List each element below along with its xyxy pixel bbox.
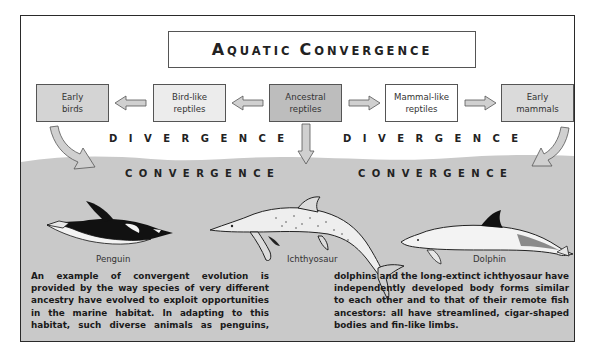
box-label: mammals xyxy=(516,103,559,115)
box-early-mammals: Earlymammals xyxy=(501,84,574,122)
box-label: Bird-like xyxy=(172,91,207,103)
diagram-title: AQUATIC CONVERGENCE xyxy=(212,40,433,59)
box-label: Early xyxy=(516,91,559,103)
box-mammal-like-reptiles: Mammal-likereptiles xyxy=(385,84,458,122)
curved-arrow-down-right-icon xyxy=(48,125,100,171)
box-label: reptiles xyxy=(394,103,449,115)
penguin-illustration xyxy=(43,197,183,253)
animal-label-penguin: Penguin xyxy=(96,254,130,264)
curved-arrow-down-left-icon xyxy=(531,125,575,171)
arrow-right-icon xyxy=(347,95,381,111)
box-early-birds: Earlybirds xyxy=(36,84,109,122)
animal-label-ichthyosaur: Ichthyosaur xyxy=(287,254,338,264)
divergence-label-left: D I V E R G E N C E xyxy=(109,133,288,144)
diagram-frame: AQUATIC CONVERGENCE Earlybirds Bird-like… xyxy=(20,15,575,342)
box-label: Mammal-like xyxy=(394,91,449,103)
box-bird-like-reptiles: Bird-likereptiles xyxy=(153,84,226,122)
box-label: reptiles xyxy=(285,103,325,115)
arrow-left-icon xyxy=(231,95,265,111)
box-label: Ancestral xyxy=(285,91,325,103)
caption-right-column: dolphins and the long-extinct ichthyosau… xyxy=(334,270,569,331)
arrow-down-icon xyxy=(297,123,315,165)
divergence-label-right: D I V E R G E N C E xyxy=(343,133,522,144)
box-label: reptiles xyxy=(172,103,207,115)
box-label: birds xyxy=(62,103,84,115)
box-label: Early xyxy=(62,91,84,103)
box-ancestral-reptiles: Ancestralreptiles xyxy=(269,84,342,122)
animal-label-dolphin: Dolphin xyxy=(473,254,506,264)
arrow-left-icon xyxy=(114,95,148,111)
title-box: AQUATIC CONVERGENCE xyxy=(168,31,476,68)
convergence-label-right: C O N V E R G E N C E xyxy=(358,168,508,179)
convergence-label-left: C O N V E R G E N C E xyxy=(125,168,275,179)
arrow-right-icon xyxy=(463,95,497,111)
caption-left-column: An example of convergent evolution is pr… xyxy=(31,270,269,331)
